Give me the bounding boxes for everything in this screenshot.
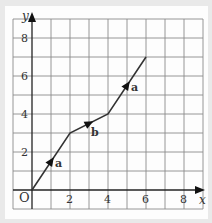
- x-tick-8: 8: [180, 193, 187, 206]
- annotation-a2: a: [131, 81, 138, 94]
- y-tick-8: 8: [21, 32, 28, 45]
- x-tick-4: 4: [104, 193, 111, 206]
- y-tick-6: 6: [21, 70, 28, 83]
- x-tick-2: 2: [66, 193, 73, 206]
- y-tick-4: 4: [21, 108, 28, 121]
- coordinate-graph: y x O 2 4 6 8 2 4 6 8 a b a: [0, 0, 212, 223]
- y-tick-2: 2: [21, 146, 28, 159]
- y-axis-arrow-icon: [28, 12, 36, 22]
- origin-label: O: [19, 190, 30, 205]
- x-axis-label: x: [199, 193, 206, 207]
- annotation-b: b: [91, 126, 99, 139]
- y-axis-label: y: [21, 9, 29, 23]
- x-tick-6: 6: [142, 193, 149, 206]
- annotation-a1: a: [55, 157, 62, 170]
